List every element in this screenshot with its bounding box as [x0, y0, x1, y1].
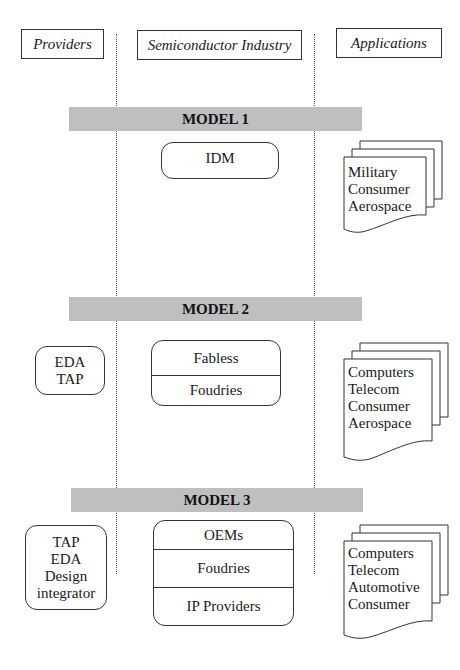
- industry-segment: Foudries: [152, 375, 280, 405]
- application-item: Computers: [348, 364, 414, 381]
- industry-segment: Foudries: [154, 549, 293, 587]
- industry-column-header: Semiconductor Industry: [137, 30, 302, 60]
- model-2-applications-stack: Computers Telecom Consumer Aerospace: [336, 341, 452, 466]
- provider-item: EDA: [51, 551, 82, 568]
- industry-segment: IDM: [162, 143, 278, 178]
- model-2-band: MODEL 2: [69, 297, 362, 321]
- applications-column-header: Applications: [336, 28, 442, 58]
- provider-item: TAP: [56, 371, 83, 388]
- industry-segment: OEMs: [154, 521, 293, 549]
- application-item: Aerospace: [348, 198, 411, 215]
- model-1-industry-box: IDM: [161, 142, 279, 179]
- application-item: Telecom: [348, 381, 414, 398]
- application-item: Aerospace: [348, 415, 414, 432]
- application-item: Consumer: [348, 181, 411, 198]
- model-1-band: MODEL 1: [69, 107, 362, 131]
- application-item: Consumer: [348, 596, 420, 613]
- provider-item: EDA: [55, 354, 86, 371]
- model-3-industry-box: OEMs Foudries IP Providers: [153, 520, 294, 626]
- industry-segment: IP Providers: [154, 587, 293, 625]
- application-item: Automotive: [348, 579, 420, 596]
- providers-column-header: Providers: [21, 29, 104, 59]
- model-1-applications-stack: Military Consumer Aerospace: [336, 139, 452, 239]
- model-2-industry-box: Fabless Foudries: [151, 340, 281, 406]
- application-item: Computers: [348, 545, 420, 562]
- model-2-providers-box: EDA TAP: [35, 346, 105, 395]
- application-item: Military: [348, 164, 411, 181]
- industry-segment: Fabless: [152, 341, 280, 375]
- provider-item: TAP: [52, 534, 79, 551]
- model-3-band: MODEL 3: [71, 488, 363, 512]
- application-item: Telecom: [348, 562, 420, 579]
- model-3-providers-box: TAP EDA Design integrator: [25, 525, 107, 610]
- provider-item: integrator: [37, 585, 95, 602]
- model-3-applications-stack: Computers Telecom Automotive Consumer: [336, 523, 452, 643]
- provider-item: Design: [45, 568, 88, 585]
- application-item: Consumer: [348, 398, 414, 415]
